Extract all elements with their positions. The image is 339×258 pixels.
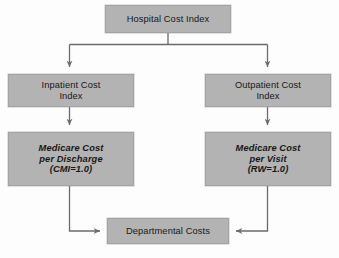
node-hospital-cost-index: Hospital Cost Index	[105, 5, 231, 33]
node-inpatient-cost-index: Inpatient Cost Index	[8, 74, 134, 107]
flowchart-diagram: Hospital Cost Index Inpatient Cost Index…	[0, 0, 339, 258]
node-medicare-cost-per-visit-line-2: per Visit	[249, 154, 286, 165]
node-outpatient-cost-index-line-2: Index	[256, 91, 279, 102]
node-medicare-cost-per-discharge-line-3: (CMI=1.0)	[50, 164, 93, 175]
node-departmental-costs: Departmental Costs	[107, 218, 229, 244]
node-departmental-costs-line-1: Departmental Costs	[126, 226, 210, 237]
node-medicare-cost-per-visit-line-1: Medicare Cost	[236, 143, 301, 154]
node-hospital-cost-index-line-1: Hospital Cost Index	[127, 14, 210, 25]
edge-medicare-discharge-to-departmental	[70, 186, 101, 231]
edge-medicare-visit-to-departmental	[236, 186, 268, 231]
node-medicare-cost-per-visit-line-3: (RW=1.0)	[248, 164, 289, 175]
node-outpatient-cost-index-line-1: Outpatient Cost	[235, 80, 301, 91]
node-outpatient-cost-index: Outpatient Cost Index	[205, 74, 331, 107]
node-inpatient-cost-index-line-1: Inpatient Cost	[42, 80, 101, 91]
node-medicare-cost-per-discharge: Medicare Cost per Discharge (CMI=1.0)	[8, 132, 134, 186]
node-inpatient-cost-index-line-2: Index	[59, 91, 82, 102]
node-medicare-cost-per-visit: Medicare Cost per Visit (RW=1.0)	[205, 132, 331, 186]
node-medicare-cost-per-discharge-line-1: Medicare Cost	[39, 143, 104, 154]
node-medicare-cost-per-discharge-line-2: per Discharge	[39, 154, 102, 165]
